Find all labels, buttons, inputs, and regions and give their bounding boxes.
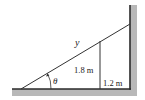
diagram-canvas: y θ 1.8 m 1.2 m bbox=[0, 0, 145, 100]
fence-height-label: 1.8 m bbox=[74, 65, 94, 75]
fence-distance-label: 1.2 m bbox=[103, 78, 123, 88]
angle-label: θ bbox=[53, 76, 58, 86]
wall-hatch bbox=[130, 5, 137, 96]
ladder-length-label: y bbox=[74, 37, 80, 48]
ground-hatch bbox=[12, 89, 137, 96]
